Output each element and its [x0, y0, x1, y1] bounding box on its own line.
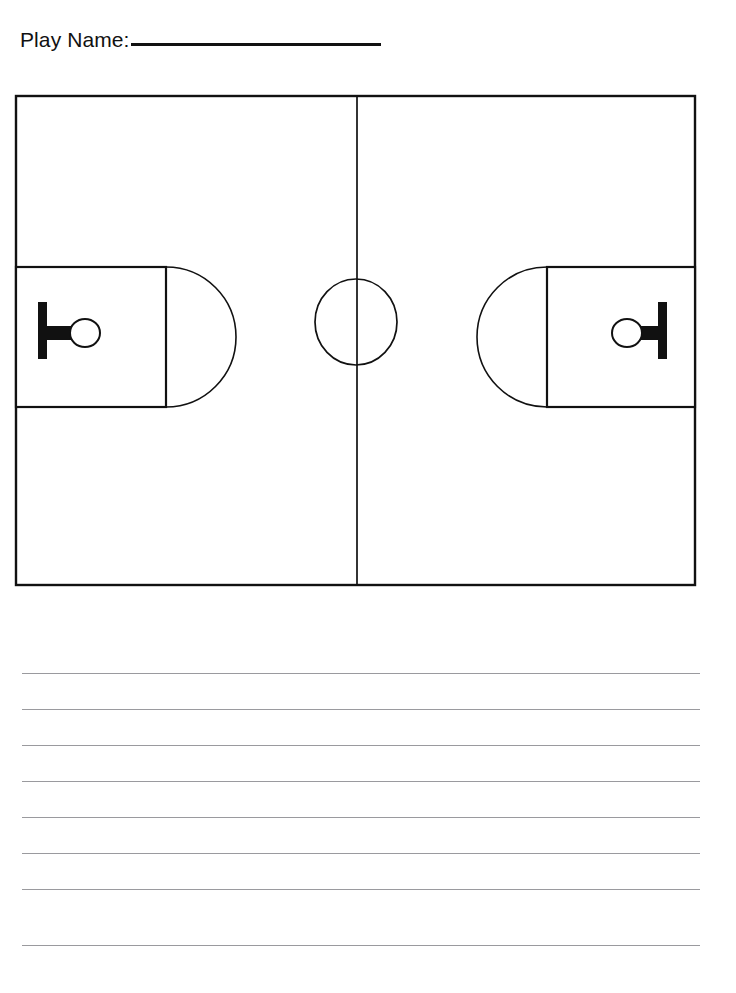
right-backboard [658, 302, 667, 359]
left-rim [70, 319, 100, 347]
note-line[interactable] [22, 817, 700, 818]
note-line[interactable] [22, 945, 700, 946]
worksheet-page: Play Name: [0, 0, 736, 993]
note-line[interactable] [22, 853, 700, 854]
notes-section [0, 640, 736, 993]
note-line[interactable] [22, 889, 700, 890]
note-line[interactable] [22, 745, 700, 746]
note-line[interactable] [22, 781, 700, 782]
right-rim [612, 319, 642, 347]
basketball-court-diagram [0, 0, 736, 640]
note-line[interactable] [22, 673, 700, 674]
court-diagram-container [0, 0, 736, 640]
left-backboard [38, 302, 47, 359]
note-line[interactable] [22, 709, 700, 710]
